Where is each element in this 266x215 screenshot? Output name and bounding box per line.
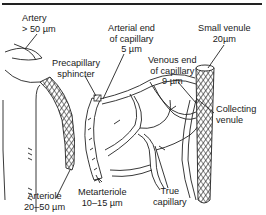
label-artery: Artery > 50 µm	[22, 13, 56, 34]
metarteriole-label-name: Metarteriole	[78, 187, 127, 198]
arterial-end-label-size: 5 µm	[108, 44, 155, 55]
capillary-network	[100, 74, 198, 200]
arteriole-label-size: 20–50 µm	[24, 202, 65, 213]
arterial-end-label-line1: Arterial end	[108, 23, 155, 34]
small-venule-label-size: 20µm	[198, 34, 251, 45]
collecting-venule-label-line1: Collecting	[216, 104, 256, 115]
label-arteriole: Arteriole 20–50 µm	[24, 191, 65, 212]
arteriole-label-name: Arteriole	[24, 191, 65, 202]
true-capillary-label-line1: True	[153, 186, 187, 197]
precapillary-sphincter-shape	[94, 95, 101, 101]
venule-vessel	[196, 65, 214, 203]
label-true-capillary: True capillary	[153, 186, 187, 207]
label-precapillary-sphincter: Precapillary sphincter	[52, 58, 100, 79]
label-small-venule: Small venule 20µm	[198, 23, 251, 44]
collecting-venule-label-line2: venule	[216, 115, 256, 126]
capillary-bed-diagram: Artery > 50 µm Precapillary sphincter Ar…	[0, 0, 266, 215]
venous-end-label-line1: Venous end	[148, 55, 197, 66]
artery-vessel	[3, 44, 42, 212]
label-arterial-end: Arterial end of capillary 5 µm	[108, 23, 155, 55]
venous-end-label-size: 9 µm	[148, 76, 197, 87]
arteriole-vessel	[40, 77, 75, 170]
small-venule-label-name: Small venule	[198, 23, 251, 34]
metarteriole-vessel	[85, 98, 102, 182]
artery-label-size: > 50 µm	[22, 24, 56, 35]
precapillary-sphincter-label-line2: sphincter	[52, 69, 100, 80]
label-venous-end: Venous end of capillary 9 µm	[148, 55, 197, 87]
label-metarteriole: Metarteriole 10–15 µm	[78, 187, 127, 208]
metarteriole-label-size: 10–15 µm	[78, 198, 127, 209]
precapillary-sphincter-label-line1: Precapillary	[52, 58, 100, 69]
arterial-end-label-line2: of capillary	[108, 34, 155, 45]
label-collecting-venule: Collecting venule	[216, 104, 256, 125]
artery-label-name: Artery	[22, 13, 56, 24]
venous-end-label-line2: of capillary	[148, 66, 197, 77]
true-capillary-label-line2: capillary	[153, 197, 187, 208]
